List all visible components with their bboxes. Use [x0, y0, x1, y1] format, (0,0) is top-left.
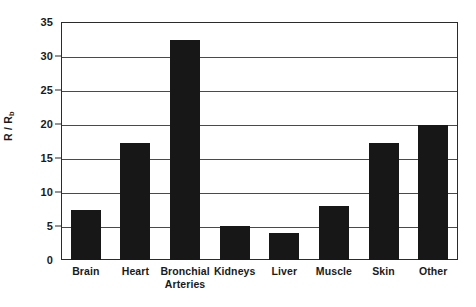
y-axis-tick-label: 10 [41, 186, 53, 198]
gridline [62, 227, 457, 228]
y-axis-title: R / Rb [2, 111, 14, 141]
plot-area [61, 22, 458, 260]
gridline [62, 125, 457, 126]
gridline [62, 91, 457, 92]
gridline [62, 159, 457, 160]
y-axis-tick-label: 35 [41, 16, 53, 28]
bar-chart: 05101520253035 R / Rb BrainHeartBronchia… [0, 0, 476, 307]
gridline [62, 193, 457, 194]
x-axis-tick-label-line: Liver [272, 265, 298, 277]
x-axis-tick-label: Other [395, 265, 471, 278]
y-axis-title-subscript: b [7, 111, 16, 116]
y-axis-tick-label: 25 [41, 84, 53, 96]
y-axis-tick-label: 30 [41, 50, 53, 62]
y-axis-tick-mark [55, 226, 61, 227]
y-axis-tick-mark [55, 124, 61, 125]
gridline [62, 57, 457, 58]
y-axis-tick-label: 20 [41, 118, 53, 130]
y-axis-title-text: R / R [2, 116, 14, 141]
x-axis: BrainHeartBronchialArteriesKidneysLiverM… [61, 265, 458, 305]
y-axis-tick-label: 15 [41, 152, 53, 164]
y-axis-tick-mark [55, 56, 61, 57]
y-axis-tick-mark [55, 192, 61, 193]
y-axis-tick-label: 5 [47, 220, 53, 232]
x-axis-tick-label-line: Heart [122, 265, 149, 277]
x-axis-tick-label-line: Arteries [147, 278, 223, 291]
y-axis-tick-mark [55, 158, 61, 159]
x-axis-tick-label-line: Other [419, 265, 448, 277]
y-axis-tick-mark [55, 90, 61, 91]
x-axis-tick-label-line: Brain [72, 265, 99, 277]
y-axis: 05101520253035 [0, 22, 61, 260]
x-axis-tick-label-line: Skin [372, 265, 395, 277]
